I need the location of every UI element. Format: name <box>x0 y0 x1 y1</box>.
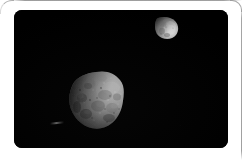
card-corner-top-left <box>0 0 14 14</box>
moons-layer <box>14 10 228 148</box>
moon-small-icon <box>152 14 182 42</box>
image-viewer-card <box>0 0 245 164</box>
astronomy-photograph <box>14 10 228 148</box>
moon-large-icon <box>64 65 134 137</box>
card-edge-top <box>11 0 242 1</box>
card-edge-right <box>241 6 242 160</box>
